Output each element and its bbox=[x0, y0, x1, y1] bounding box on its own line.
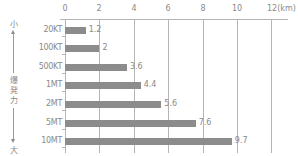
category-label: 1MT bbox=[0, 80, 62, 89]
x-tick-label: 8 bbox=[200, 4, 205, 13]
bar-value-label: 3.6 bbox=[130, 62, 143, 71]
grid-line bbox=[203, 19, 204, 153]
bar-chart: 小 爆 発 力 大 024681012(km) 20KT1.2100KT2500… bbox=[0, 0, 298, 156]
x-tick-label: 6 bbox=[165, 4, 170, 13]
x-tick-label: 12(km) bbox=[267, 4, 296, 13]
x-tick-label: 4 bbox=[131, 4, 136, 13]
category-label: 5MT bbox=[0, 118, 62, 127]
category-tick bbox=[62, 36, 65, 37]
category-tick bbox=[62, 73, 65, 74]
x-tick-label: 10 bbox=[232, 4, 242, 13]
x-axis-line bbox=[60, 19, 288, 20]
bar bbox=[65, 64, 127, 71]
bar-value-label: 7.6 bbox=[199, 118, 212, 127]
bar-value-label: 1.2 bbox=[89, 25, 102, 34]
category-label: 20KT bbox=[0, 25, 62, 34]
bar-value-label: 2 bbox=[102, 43, 107, 52]
category-label: 500KT bbox=[0, 62, 62, 71]
category-tick bbox=[62, 129, 65, 130]
category-tick bbox=[62, 54, 65, 55]
category-label: 2MT bbox=[0, 99, 62, 108]
ylabel-bottom: 大 bbox=[8, 144, 20, 155]
x-tick-label: 0 bbox=[62, 4, 67, 13]
category-tick bbox=[62, 147, 65, 148]
bar-value-label: 5.6 bbox=[164, 99, 177, 108]
category-tick bbox=[62, 110, 65, 111]
bar bbox=[65, 82, 141, 89]
category-label: 100KT bbox=[0, 43, 62, 52]
bar bbox=[65, 138, 232, 145]
grid-line bbox=[168, 19, 169, 153]
bar bbox=[65, 27, 86, 34]
bar-value-label: 4.4 bbox=[144, 80, 157, 89]
grid-line bbox=[271, 19, 272, 153]
bar bbox=[65, 101, 161, 108]
category-tick bbox=[62, 91, 65, 92]
category-label: 10MT bbox=[0, 136, 62, 145]
bar bbox=[65, 45, 99, 52]
x-tick-label: 2 bbox=[96, 4, 101, 13]
bar bbox=[65, 120, 196, 127]
grid-line bbox=[237, 19, 238, 153]
bar-value-label: 9.7 bbox=[235, 136, 248, 145]
